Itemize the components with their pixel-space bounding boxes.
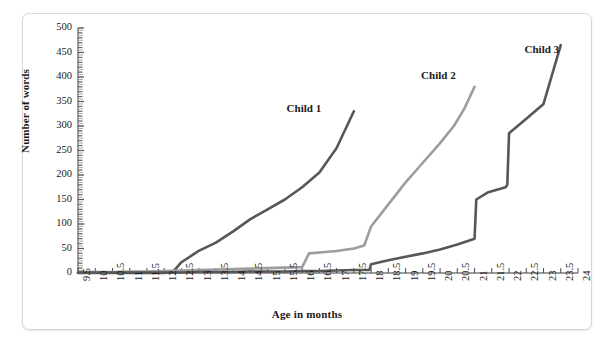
x-axis-tick-label: 20.5 xyxy=(461,263,472,281)
x-axis-tick-label: 11.5 xyxy=(151,263,162,281)
x-axis-tick-label: 15 xyxy=(272,271,283,282)
x-axis-tick-label: 17 xyxy=(341,271,352,282)
x-axis-tick-label: 18 xyxy=(375,271,386,282)
x-axis-tick-label: 12 xyxy=(168,271,179,282)
y-axis-tick-label: 300 xyxy=(42,120,72,131)
x-axis-tick-label: 22 xyxy=(513,271,524,282)
x-axis-tick-label: 13.5 xyxy=(220,263,231,281)
y-axis-tick-label: 250 xyxy=(42,145,72,156)
y-axis-tick-label: 350 xyxy=(42,96,72,107)
x-axis-tick-label: 11 xyxy=(134,271,145,281)
y-axis-tick-label: 200 xyxy=(42,169,72,180)
y-axis-tick-label: 450 xyxy=(42,47,72,58)
x-axis-tick-label: 14.5 xyxy=(254,263,265,281)
series-label-1: Child 1 xyxy=(287,102,322,114)
x-axis-tick-label: 13 xyxy=(203,271,214,282)
y-axis-tick-label: 500 xyxy=(42,22,72,33)
y-axis-tick-label: 0 xyxy=(42,267,72,278)
x-axis-tick-label: 21.5 xyxy=(496,263,507,281)
chart-ticks-layer: 0501001502002503003504004505009.51010.51… xyxy=(0,0,614,345)
x-axis-tick-label: 18.5 xyxy=(392,263,403,281)
x-axis-tick-label: 10 xyxy=(99,271,110,282)
x-axis-tick-label: 20 xyxy=(444,271,455,282)
series-label-2: Child 2 xyxy=(421,69,456,81)
y-axis-tick-label: 50 xyxy=(42,243,72,254)
x-axis-tick-label: 16.5 xyxy=(323,263,334,281)
x-axis-tick-label: 21 xyxy=(479,271,490,282)
x-axis-tick-label: 9.5 xyxy=(82,268,93,281)
x-axis-tick-label: 12.5 xyxy=(185,263,196,281)
x-axis-tick-label: 19.5 xyxy=(427,263,438,281)
x-axis-title: Age in months xyxy=(0,308,614,320)
series-label-3: Child 3 xyxy=(525,43,560,55)
x-axis-tick-label: 23 xyxy=(548,271,559,282)
x-axis-tick-label: 16 xyxy=(306,271,317,282)
y-axis-title: Number of words xyxy=(19,26,31,196)
x-axis-tick-label: 23.5 xyxy=(565,263,576,281)
x-axis-tick-label: 14 xyxy=(237,271,248,282)
y-axis-tick-label: 150 xyxy=(42,194,72,205)
x-axis-tick-label: 15.5 xyxy=(289,263,300,281)
x-axis-tick-label: 10.5 xyxy=(116,263,127,281)
x-axis-tick-label: 19 xyxy=(410,271,421,282)
y-axis-tick-label: 400 xyxy=(42,71,72,82)
x-axis-tick-label: 22.5 xyxy=(530,263,541,281)
y-axis-tick-label: 100 xyxy=(42,218,72,229)
x-axis-tick-label: 17.5 xyxy=(358,263,369,281)
x-axis-tick-label: 24 xyxy=(582,271,593,282)
